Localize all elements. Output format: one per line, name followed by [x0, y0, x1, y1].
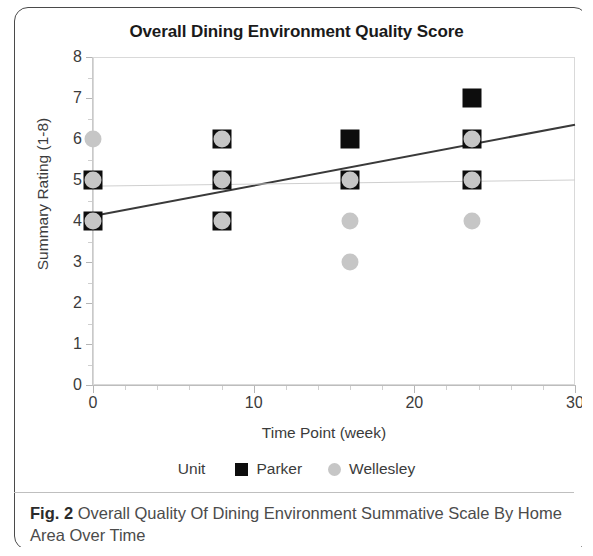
- data-point-wellesley: [464, 131, 481, 148]
- figure-caption: Fig. 2 Overall Quality Of Dining Environ…: [30, 503, 578, 547]
- data-point-wellesley: [213, 131, 230, 148]
- x-tick-label: 10: [234, 394, 274, 412]
- x-tick-minor: [222, 386, 223, 390]
- data-point-wellesley: [85, 213, 102, 230]
- y-tick-label: 2: [60, 294, 82, 312]
- data-point-wellesley: [342, 213, 359, 230]
- y-tick-minor: [88, 201, 92, 202]
- y-tick-label: 5: [60, 171, 82, 189]
- x-tick-minor: [189, 386, 190, 390]
- y-tick: [86, 57, 92, 58]
- y-tick-label: 3: [60, 253, 82, 271]
- y-tick-label: 8: [60, 48, 82, 66]
- y-tick: [86, 303, 92, 304]
- x-tick-label: 0: [73, 394, 113, 412]
- chart-title: Overall Dining Environment Quality Score: [0, 22, 593, 42]
- card-mask-right: [582, 0, 593, 556]
- y-tick-label: 4: [60, 212, 82, 230]
- data-point-wellesley: [342, 254, 359, 271]
- data-point-wellesley: [464, 172, 481, 189]
- y-tick-label: 6: [60, 130, 82, 148]
- figure-card: Overall Dining Environment Quality Score…: [0, 0, 593, 556]
- trend-line-parker: [93, 125, 575, 216]
- figure-caption-text: Overall Quality Of Dining Environment Su…: [30, 504, 562, 544]
- x-tick: [414, 386, 415, 393]
- data-point-wellesley: [464, 213, 481, 230]
- x-tick-minor: [318, 386, 319, 390]
- y-tick-minor: [88, 324, 92, 325]
- data-point-wellesley: [213, 172, 230, 189]
- data-point-wellesley: [213, 213, 230, 230]
- data-point-wellesley: [85, 172, 102, 189]
- y-tick-minor: [88, 283, 92, 284]
- y-tick: [86, 98, 92, 99]
- data-point-parker: [341, 130, 360, 149]
- plot-area: [93, 57, 575, 385]
- x-tick-minor: [350, 386, 351, 390]
- data-point-parker: [463, 89, 482, 108]
- x-tick-minor: [157, 386, 158, 390]
- legend-item-parker[interactable]: Parker: [235, 460, 302, 478]
- x-tick: [93, 386, 94, 393]
- y-tick-minor: [88, 119, 92, 120]
- x-axis-line: [92, 385, 576, 386]
- x-tick: [254, 386, 255, 393]
- x-axis-title: Time Point (week): [0, 424, 593, 442]
- caption-divider: [14, 492, 574, 493]
- x-tick-minor: [125, 386, 126, 390]
- trend-lines: [93, 57, 575, 385]
- x-tick: [575, 386, 576, 393]
- legend-label-parker: Parker: [256, 460, 302, 478]
- x-tick-minor: [446, 386, 447, 390]
- figure-caption-label: Fig. 2: [30, 504, 73, 522]
- y-tick-minor: [88, 78, 92, 79]
- data-point-wellesley: [342, 172, 359, 189]
- trend-line-wellesley: [93, 180, 575, 186]
- square-marker-icon: [235, 463, 248, 476]
- y-tick-label: 0: [60, 376, 82, 394]
- circle-marker-icon: [328, 463, 341, 476]
- y-tick-label: 7: [60, 89, 82, 107]
- data-point-wellesley: [85, 131, 102, 148]
- x-tick-label: 20: [394, 394, 434, 412]
- y-tick-minor: [88, 242, 92, 243]
- x-tick-minor: [511, 386, 512, 390]
- x-tick-minor: [382, 386, 383, 390]
- x-tick-minor: [286, 386, 287, 390]
- x-tick-minor: [543, 386, 544, 390]
- y-tick-minor: [88, 365, 92, 366]
- y-tick-minor: [88, 160, 92, 161]
- x-tick-minor: [479, 386, 480, 390]
- y-axis-title: Summary Rating (1-8): [34, 89, 52, 299]
- legend-title: Unit: [178, 460, 206, 478]
- legend-label-wellesley: Wellesley: [349, 460, 415, 478]
- y-tick: [86, 344, 92, 345]
- y-tick-label: 1: [60, 335, 82, 353]
- card-mask-bottom: [0, 547, 593, 556]
- legend-item-wellesley[interactable]: Wellesley: [328, 460, 415, 478]
- y-tick: [86, 262, 92, 263]
- legend: Unit Parker Wellesley: [0, 460, 593, 478]
